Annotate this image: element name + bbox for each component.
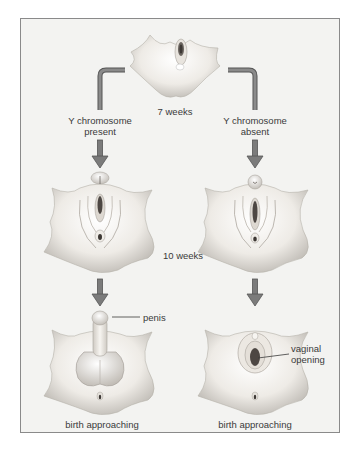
arrow-down-icon (92, 279, 108, 306)
diagram-graphics (0, 0, 350, 450)
annotation-line2: opening (291, 354, 325, 365)
illustration-10-weeks-male (44, 172, 154, 273)
stage-label-7-weeks: 7 weeks (152, 106, 198, 117)
illustration-birth-male (44, 311, 154, 415)
illustration-7-weeks (130, 35, 220, 97)
arrow-down-icon (92, 140, 108, 168)
branch-label-y-present: Y chromosome present (62, 115, 138, 137)
annotation-vaginal-opening: vaginal opening (291, 343, 325, 365)
branch-label-line2: absent (217, 126, 293, 137)
stage-label-birth-female: birth approaching (205, 419, 305, 430)
arrow-down-icon (247, 279, 263, 306)
branch-label-y-absent: Y chromosome absent (217, 115, 293, 137)
stage-label-birth-male: birth approaching (52, 419, 152, 430)
arrow-down-icon (247, 140, 263, 168)
branch-label-line1: Y chromosome (62, 115, 138, 126)
annotation-line1: vaginal (291, 343, 325, 354)
branch-label-line1: Y chromosome (217, 115, 293, 126)
right-bracket-connector (228, 70, 255, 110)
branch-label-line2: present (62, 126, 138, 137)
illustration-10-weeks-female (198, 175, 308, 273)
left-bracket-connector (100, 70, 125, 110)
stage-label-10-weeks: 10 weeks (158, 250, 208, 261)
annotation-penis: penis (143, 312, 166, 323)
